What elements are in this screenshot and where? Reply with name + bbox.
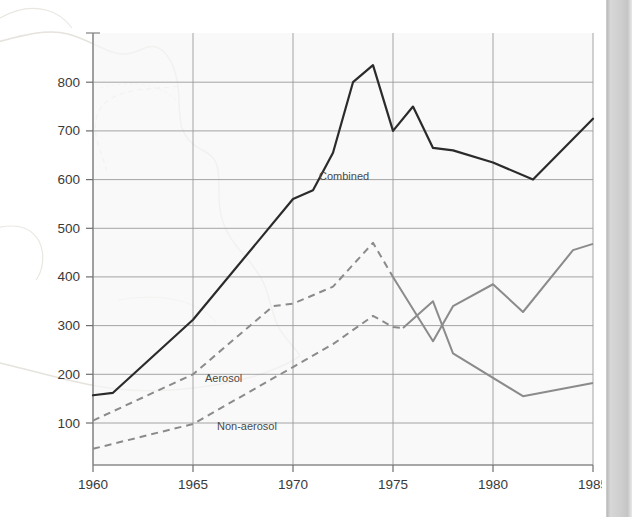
chart-page: 100 200 300 400 500 600 700 800 1960 196…	[0, 0, 632, 517]
y-tick-label: 700	[57, 123, 80, 138]
y-tick-label: 600	[57, 172, 80, 187]
y-tick-label: 300	[57, 318, 80, 333]
x-tick-label: 1970	[278, 477, 308, 492]
y-tick-labels: 100 200 300 400 500 600 700 800	[57, 75, 80, 431]
x-tick-label: 1980	[478, 477, 508, 492]
x-axis	[93, 465, 593, 472]
x-tick-label: 1975	[378, 477, 408, 492]
series-label-non-aerosol: Non-aerosol	[217, 420, 277, 432]
y-tick-label: 500	[57, 221, 80, 236]
y-tick-label: 800	[57, 75, 80, 90]
y-tick-label: 400	[57, 269, 80, 284]
plot-area-background	[93, 33, 593, 465]
series-label-combined: Combined	[319, 170, 369, 182]
x-tick-labels: 1960 1965 1970 1975 1980 1985	[78, 477, 608, 492]
y-tick-label: 200	[57, 367, 80, 382]
series-label-aerosol: Aerosol	[205, 372, 242, 384]
line-chart: 100 200 300 400 500 600 700 800 1960 196…	[0, 0, 632, 517]
page-edge-strip	[602, 0, 632, 517]
y-tick-label: 100	[57, 416, 80, 431]
x-tick-label: 1960	[78, 477, 108, 492]
x-tick-label: 1965	[178, 477, 208, 492]
